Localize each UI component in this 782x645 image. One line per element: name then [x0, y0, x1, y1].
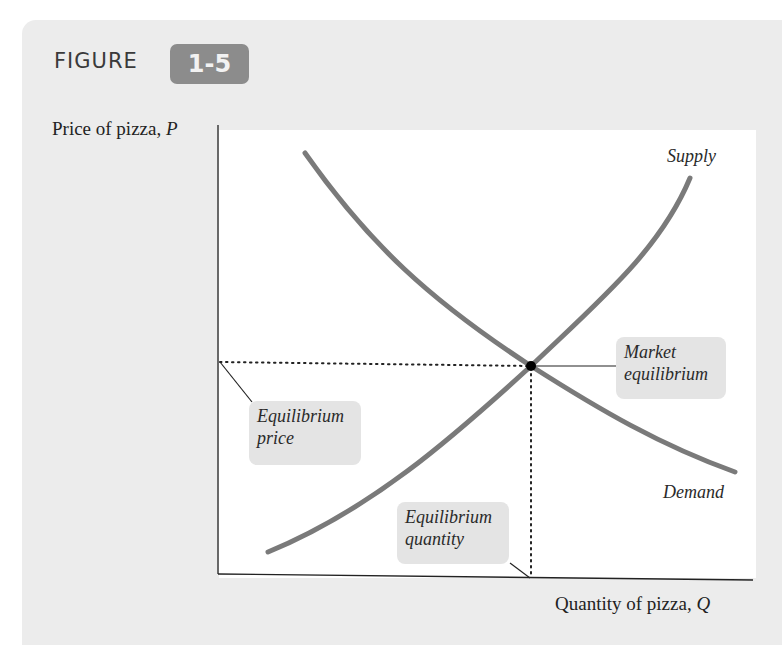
market-equilibrium-callout: Market equilibrium	[616, 337, 726, 399]
equilibrium-price-callout: Equilibrium price	[249, 401, 361, 465]
x-axis-label: Quantity of pizza, Q	[555, 593, 710, 615]
x-axis	[218, 574, 753, 580]
equilibrium-price-guide	[220, 362, 531, 366]
supply-label: Supply	[667, 146, 716, 167]
equilibrium-quantity-leader	[510, 563, 530, 578]
equilibrium-point	[526, 361, 536, 371]
equilibrium-quantity-callout: Equilibrium quantity	[397, 502, 509, 564]
equilibrium-price-leader	[220, 362, 252, 402]
demand-curve	[305, 153, 735, 472]
demand-label: Demand	[663, 482, 724, 503]
